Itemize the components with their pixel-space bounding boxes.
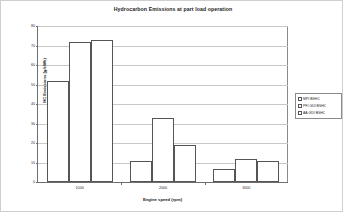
legend-item-label: PFI GDI BSHC [303, 104, 326, 108]
plot-area: 01020304050607080 100020003000 HC Emissi… [37, 26, 288, 183]
y-axis-tick-mark [36, 124, 38, 125]
y-axis-tick-mark [36, 182, 38, 183]
bar [47, 81, 69, 182]
legend-item[interactable]: PFI GDI BSHC [298, 103, 341, 110]
legend-item[interactable]: MPI BSHC [298, 96, 341, 103]
bar [174, 145, 196, 182]
bar [91, 40, 113, 182]
y-axis-title: HC Emissions (g/kWh) [42, 31, 47, 131]
bar [213, 169, 235, 182]
x-axis-tick-mark [121, 182, 122, 185]
x-axis-tick-label: 2000 [159, 186, 167, 190]
y-axis-tick-mark [36, 143, 38, 144]
legend-item-label: AA GDI BSHC [303, 111, 325, 115]
y-axis-tick-mark [36, 85, 38, 86]
y-axis-tick-mark [36, 26, 38, 27]
y-axis-tick-mark [36, 46, 38, 47]
y-axis-tick-mark [36, 163, 38, 164]
bar [69, 42, 91, 182]
y-axis-tick-mark [36, 104, 38, 105]
legend-swatch-icon [298, 111, 302, 115]
chart-title: Hydrocarbon Emissions at part load opera… [1, 6, 344, 12]
bar [235, 159, 257, 182]
x-axis-tick-mark [205, 182, 206, 185]
x-axis-title: Engine speed (rpm) [37, 197, 288, 202]
bar [257, 161, 279, 182]
x-axis-tick-label: 3000 [242, 186, 250, 190]
bar [152, 118, 174, 182]
x-axis-tick-label: 1000 [76, 186, 84, 190]
legend-swatch-icon [298, 97, 302, 101]
legend-swatch-icon [298, 104, 302, 108]
chart-legend: MPI BSHCPFI GDI BSHCAA GDI BSHC [295, 93, 342, 119]
chart-frame: Hydrocarbon Emissions at part load opera… [0, 0, 343, 212]
gridline [38, 26, 288, 27]
legend-item-label: MPI BSHC [303, 97, 320, 101]
legend-item[interactable]: AA GDI BSHC [298, 110, 341, 117]
bar [130, 161, 152, 182]
y-axis-tick-mark [36, 65, 38, 66]
